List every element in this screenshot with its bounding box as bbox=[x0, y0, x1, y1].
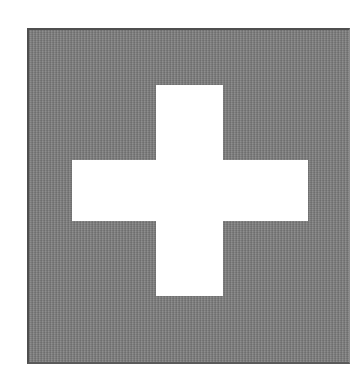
cross-horizontal-bar bbox=[72, 160, 308, 221]
